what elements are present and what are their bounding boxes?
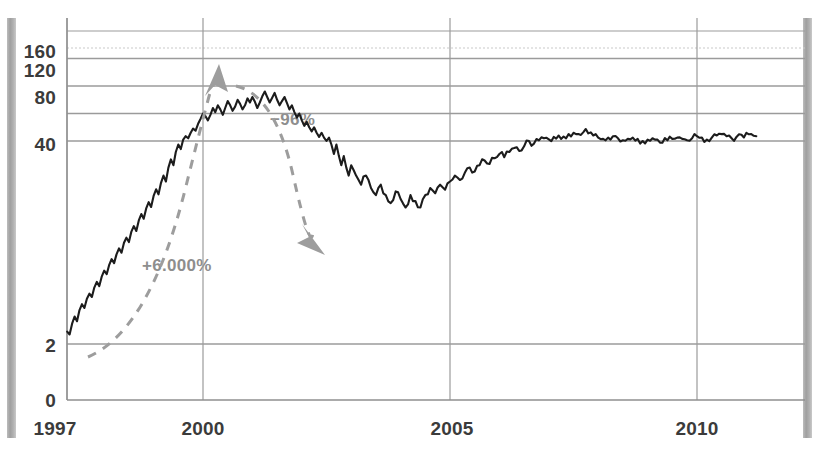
- chart-figure: 160 120 80 40 2 0 1997 2000 2005 2010 +6…: [0, 0, 821, 458]
- rise-arrow-curve: [88, 82, 213, 357]
- crash-arrow-curve: [236, 86, 313, 237]
- plot-canvas: [0, 0, 821, 458]
- horizontal-gridlines: [67, 31, 805, 344]
- crash-arrow-head: [297, 224, 325, 255]
- rise-arrow-head: [205, 64, 228, 96]
- vertical-gridlines: [67, 18, 697, 400]
- data-series-line: [67, 92, 756, 335]
